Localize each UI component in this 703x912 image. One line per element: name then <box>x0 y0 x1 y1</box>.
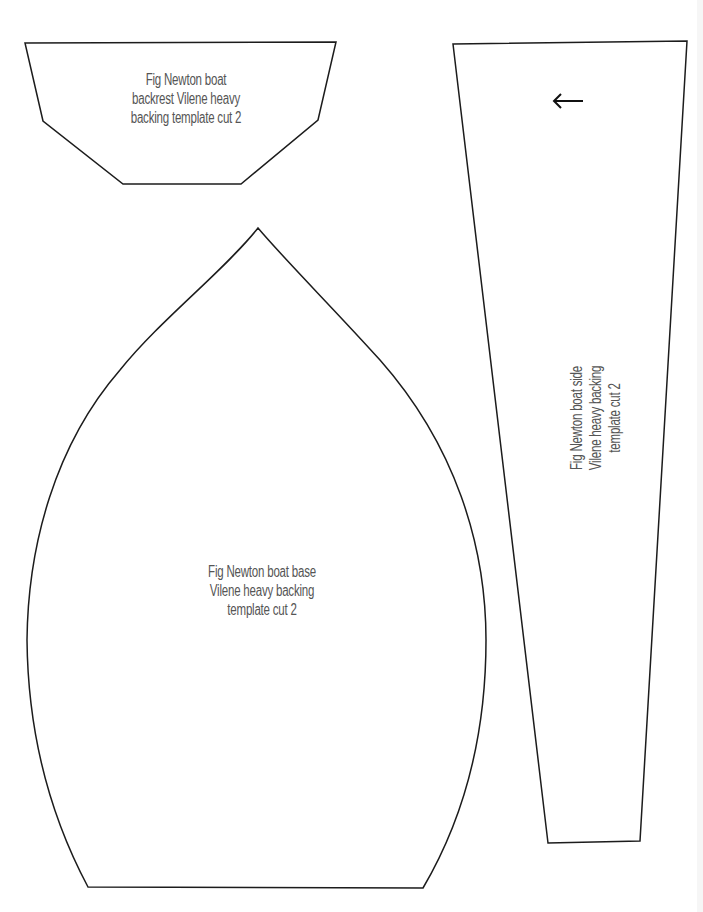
side-label-line-1: Fig Newton boat side <box>568 366 587 470</box>
base-label-line-3: template cut 2 <box>208 601 316 620</box>
backrest-label-line-1: Fig Newton boat <box>131 71 242 90</box>
backrest-label-line-2: backrest Vilene heavy <box>131 90 242 109</box>
side-label-line-2: Vilene heavy backing <box>587 366 606 470</box>
backrest-label-line-3: backing template cut 2 <box>131 109 242 128</box>
left-arrow-icon <box>551 89 585 113</box>
base-outline <box>27 228 486 888</box>
base-label-line-2: Vilene heavy backing <box>208 582 316 601</box>
base-label-line-1: Fig Newton boat base <box>208 563 316 582</box>
side-label-line-3: template cut 2 <box>605 366 624 470</box>
